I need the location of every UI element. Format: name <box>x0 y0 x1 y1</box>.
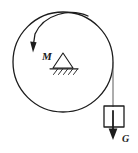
physics-figure: M G <box>0 0 138 153</box>
pin-support-triangle <box>53 53 73 68</box>
figure-canvas: M G <box>0 0 138 153</box>
weight-block <box>104 106 124 127</box>
ground-hatching <box>54 69 78 74</box>
moment-label: M <box>41 50 53 62</box>
weight-arrowhead <box>109 129 118 141</box>
disk <box>13 12 113 112</box>
weight-label: G <box>122 133 130 144</box>
moment-arrowhead <box>30 41 36 52</box>
